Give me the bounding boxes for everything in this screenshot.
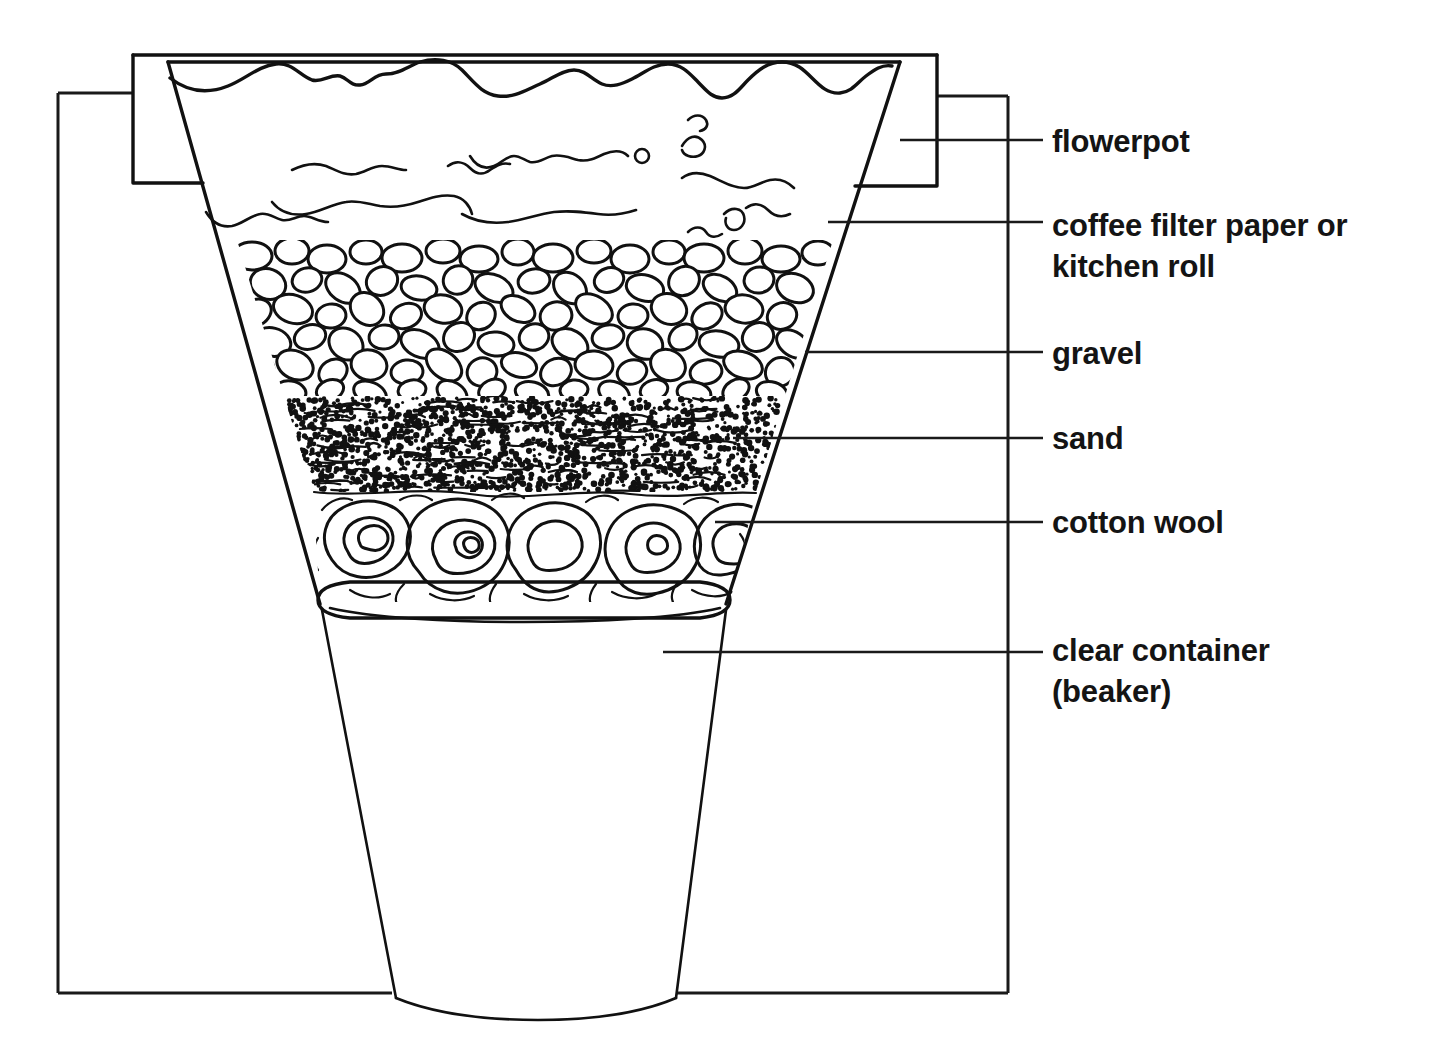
sand-grain	[736, 443, 740, 447]
water-filter-diagram: flowerpotcoffee filter paper orkitchen r…	[0, 0, 1431, 1058]
sand-grain	[643, 443, 647, 447]
sand-grain	[528, 476, 533, 481]
sand-grain	[507, 404, 513, 410]
sand-grain	[455, 448, 458, 451]
sand-grain	[656, 470, 661, 475]
sand-grain	[323, 486, 327, 490]
sand-grain	[478, 476, 483, 481]
sand-grain	[734, 487, 738, 491]
sand-grain	[725, 481, 731, 487]
sand-grain	[354, 437, 360, 443]
sand-grain	[749, 428, 754, 433]
sand-grain	[345, 475, 349, 479]
sand-grain	[349, 424, 354, 429]
sand-grain	[503, 464, 507, 468]
sand-grain	[691, 431, 696, 436]
sand-grain	[526, 448, 532, 454]
sand-grain	[313, 418, 318, 423]
sand-grain	[430, 432, 434, 436]
sand-grain	[303, 458, 307, 462]
sand-grain	[321, 468, 324, 471]
sand-grain	[387, 456, 392, 461]
sand-grain	[752, 398, 757, 403]
sand-grain	[615, 480, 619, 484]
sand-grain	[564, 441, 568, 445]
sand-grain	[736, 405, 740, 409]
sand-wiggle	[305, 413, 315, 414]
sand-grain	[411, 397, 414, 400]
sand-grain	[416, 464, 420, 468]
sand-grain	[761, 460, 765, 464]
sand-grain	[565, 398, 568, 401]
sand-grain	[370, 397, 373, 400]
sand-grain	[334, 440, 340, 446]
sand-grain	[754, 448, 760, 454]
sand-grain	[558, 445, 564, 451]
sand-wiggle	[547, 484, 558, 485]
sand-grain	[708, 466, 712, 470]
sand-grain	[453, 416, 457, 420]
sand-grain	[433, 414, 439, 420]
sand-wiggle	[369, 417, 398, 418]
sand-grain	[613, 414, 619, 420]
sand-grain	[763, 421, 769, 427]
sand-grain	[736, 452, 739, 455]
sand-grain	[728, 471, 731, 474]
sand-grain	[403, 474, 410, 481]
sand-grain	[637, 484, 643, 490]
sand-grain	[568, 396, 574, 402]
sand-grain	[636, 445, 639, 448]
sand-grain	[663, 483, 668, 488]
sand-grain	[731, 474, 736, 479]
sand-grain	[509, 448, 515, 454]
sand-grain	[486, 440, 491, 445]
sand-grain	[650, 445, 655, 450]
sand-grain	[360, 430, 364, 434]
sand-grain	[663, 400, 668, 405]
sand-grain	[764, 413, 770, 419]
sand-grain	[716, 452, 720, 456]
sand-grain	[400, 461, 405, 466]
sand-grain	[750, 460, 754, 464]
sand-grain	[442, 434, 445, 437]
sand-grain	[461, 438, 466, 443]
sand-grain	[320, 421, 324, 425]
sand-grain	[394, 471, 398, 475]
labels: flowerpotcoffee filter paper orkitchen r…	[1052, 124, 1347, 709]
sand-grain	[713, 412, 717, 416]
sand-grain	[727, 458, 732, 463]
sand-grain	[300, 420, 305, 425]
sand-grain	[680, 422, 685, 427]
sand-grain	[539, 438, 543, 442]
sand-grain	[714, 481, 720, 487]
sand-grain	[381, 397, 386, 402]
sand-grain	[491, 427, 495, 431]
sand-grain	[565, 448, 570, 453]
sand-grain	[654, 412, 657, 415]
sand-grain	[478, 452, 483, 457]
sand-grain	[551, 455, 554, 458]
sand-grain	[704, 450, 708, 454]
sand-grain	[708, 427, 712, 431]
sand-grain	[470, 475, 474, 479]
sand-grain	[716, 458, 721, 463]
sand-grain	[447, 483, 450, 486]
sand-grain	[763, 431, 768, 436]
sand-grain	[664, 471, 668, 475]
sand-grain	[294, 416, 297, 419]
sand-grain	[426, 405, 431, 410]
sand-grain	[631, 406, 637, 412]
sand-grain	[617, 431, 622, 436]
sand-grain	[743, 451, 747, 455]
sand-grain	[479, 428, 485, 434]
sand-grain	[310, 447, 315, 452]
sand-grain	[719, 411, 725, 417]
sand-grain	[563, 482, 568, 487]
sand-grain	[704, 486, 710, 492]
sand-grain	[375, 396, 381, 402]
label-line: kitchen roll	[1052, 249, 1215, 284]
sand-grain	[364, 477, 368, 481]
sand-grain	[565, 428, 571, 434]
sand-grain	[690, 458, 695, 463]
sand-grain	[507, 430, 510, 433]
